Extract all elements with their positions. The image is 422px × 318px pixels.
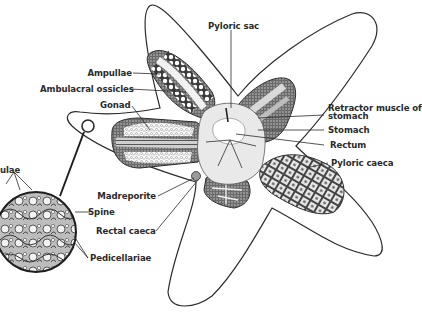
label-papulae-partial: ulae (0, 166, 20, 175)
label-rectum: Rectum (330, 141, 366, 150)
label-pyloric-sac: Pyloric sac (208, 22, 259, 31)
label-spine: Spine (88, 208, 115, 217)
label-pyloric-caeca: Pyloric caeca (331, 159, 394, 168)
label-pedicellariae: Pedicellariae (90, 254, 151, 263)
label-rectal-caeca: Rectal caeca (96, 227, 154, 236)
label-gonad: Gonad (100, 101, 131, 110)
inset-magnified-surface (0, 192, 80, 272)
label-ambulacral-ossicles: Ambulacral ossicles (40, 85, 130, 94)
madreporite (192, 172, 201, 181)
label-retractor-muscle-line2: stomach (328, 112, 368, 121)
inset-source-marker (82, 120, 94, 132)
label-madreporite: Madreporite (90, 192, 156, 201)
label-stomach: Stomach (328, 126, 369, 135)
label-ampullae: Ampullae (52, 69, 132, 78)
